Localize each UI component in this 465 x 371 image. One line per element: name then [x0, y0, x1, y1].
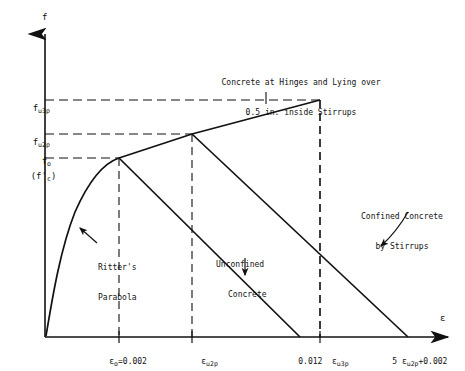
ritters-parabola-line1: Ritter's: [98, 263, 137, 273]
y-tick-label-fc-prime: (f'c): [9, 160, 56, 195]
ritters-parabola-line2: Parabola: [98, 293, 137, 303]
unconfined-concrete-line2: Concrete: [228, 290, 267, 300]
annotation-confined-concrete: Confined Concrete by Stirrups: [344, 192, 460, 272]
hinge-note-line1: Concrete at Hinges and Lying over: [196, 78, 406, 88]
confined-concrete-line1: Confined Concrete: [344, 212, 460, 222]
x-tick-eps-o-suffix: =0.002: [118, 357, 147, 366]
x-tick-eps-end-suffix: +0.002: [418, 357, 447, 366]
x-tick-eps-u3p-prefix: 0.012: [298, 357, 332, 366]
annotation-ritters-parabola: Ritter's Parabola: [98, 243, 137, 323]
unconfined-descending-branch: [119, 158, 300, 337]
annotation-unconfined-concrete: Unconfined Concrete: [216, 240, 267, 320]
fc-prime-close: ): [51, 171, 56, 181]
annotation-hinge-note: Concrete at Hinges and Lying over 0.5 in…: [196, 58, 406, 138]
x-tick-label-eps-o: εo=0.002: [90, 347, 147, 371]
y-axis-label: f: [42, 12, 47, 23]
x-tick-label-eps-end: 5 εu2p+0.002: [373, 347, 447, 371]
figure-canvas: f ε fu3p fu2p fo (f'c) εo=0.002 εu2p 0.0…: [0, 0, 465, 371]
fc-prime-open: (f': [31, 171, 47, 181]
hinge-note-line2: 0.5 in. inside Stirrups: [196, 108, 406, 118]
unconfined-concrete-line1: Unconfined: [216, 260, 267, 270]
x-tick-eps-u2p-sub: u2p: [206, 360, 218, 368]
y-tick-f-u3p-sub: u3p: [38, 107, 50, 115]
x-tick-eps-end-sub: u2p: [407, 360, 419, 368]
x-axis-label: ε: [440, 313, 445, 324]
x-tick-eps-u3p-sub: u3p: [337, 360, 349, 368]
confined-concrete-line2: by Stirrups: [344, 242, 460, 252]
ritters-parabola-leader: [80, 228, 97, 243]
x-tick-label-eps-u3p: 0.012 εu3p: [279, 347, 349, 371]
x-tick-eps-end-prefix: 5: [392, 357, 402, 366]
x-tick-label-eps-u2p: εu2p: [182, 347, 218, 371]
y-tick-label-f-u3p: fu3p: [11, 92, 50, 127]
